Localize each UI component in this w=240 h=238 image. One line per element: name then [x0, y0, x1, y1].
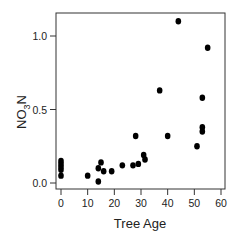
data-point	[96, 165, 102, 171]
data-point	[58, 167, 64, 173]
x-tick-label: 20	[108, 197, 120, 209]
data-point	[120, 162, 126, 168]
y-axis-ticks: 0.00.51.0	[32, 30, 56, 189]
y-tick-label: 0.0	[32, 177, 47, 189]
data-point	[157, 87, 163, 93]
data-point	[130, 162, 136, 168]
y-tick-label: 0.5	[32, 104, 47, 116]
data-point	[98, 159, 104, 165]
x-tick-label: 10	[82, 197, 94, 209]
x-axis-label: Tree Age	[114, 216, 166, 231]
data-points	[58, 18, 210, 185]
scatter-chart: 0.00.51.0 0102030405060 Tree Age NO3N	[0, 0, 240, 238]
x-tick-label: 0	[58, 197, 64, 209]
data-point	[176, 18, 182, 24]
x-tick-label: 50	[188, 197, 200, 209]
x-tick-label: 30	[135, 197, 147, 209]
x-tick-label: 60	[215, 197, 227, 209]
y-tick-label: 1.0	[32, 30, 47, 42]
data-point	[136, 161, 142, 167]
data-point	[96, 178, 102, 184]
data-point	[200, 128, 206, 134]
data-point	[142, 156, 148, 162]
x-tick-label: 40	[162, 197, 174, 209]
data-point	[194, 143, 200, 149]
x-axis-ticks: 0102030405060	[58, 189, 227, 209]
data-point	[58, 172, 64, 178]
data-point	[101, 168, 107, 174]
data-point	[200, 95, 206, 101]
data-point	[133, 133, 139, 139]
data-point	[205, 45, 211, 51]
y-axis-label: NO3N	[14, 95, 32, 129]
data-point	[165, 133, 171, 139]
data-point	[85, 172, 91, 178]
data-point	[109, 168, 115, 174]
